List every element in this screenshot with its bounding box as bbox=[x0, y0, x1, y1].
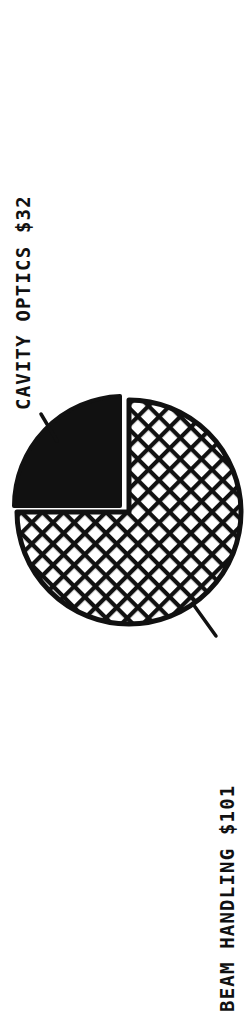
pie-slice-cavity-optics-path bbox=[14, 396, 120, 506]
pie-label-beam-handling: BEAM HANDLING $101 bbox=[216, 784, 238, 1012]
pie-chart-figure: CAVITY OPTICS $32 BEAM HANDLING $101 bbox=[0, 0, 249, 1025]
leader-line-beam-handling bbox=[193, 604, 216, 636]
pie-label-cavity-optics: CAVITY OPTICS $32 bbox=[12, 195, 34, 410]
pie-slice-cavity-optics bbox=[14, 396, 120, 506]
pie-chart-svg bbox=[0, 0, 249, 1025]
